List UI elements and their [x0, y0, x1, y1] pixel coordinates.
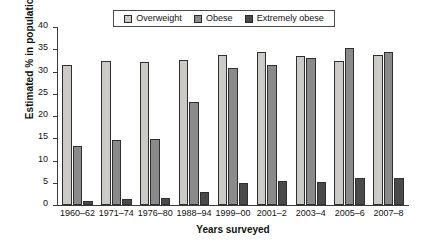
- y-axis-tick-mark: [53, 116, 57, 117]
- bar[interactable]: [140, 62, 150, 205]
- x-axis-tick-label: 2007–8: [369, 208, 408, 218]
- y-axis-tick-mark: [53, 205, 57, 206]
- bar-series-area: [58, 27, 408, 205]
- chart-legend: OverweightObeseExtremely obese: [113, 10, 335, 27]
- bar[interactable]: [179, 60, 189, 206]
- y-axis-title: Estimated % in population: [24, 0, 35, 131]
- bar[interactable]: [73, 146, 83, 205]
- bar[interactable]: [373, 55, 383, 205]
- bar[interactable]: [355, 178, 365, 205]
- x-axis-tick-label: 1999–00: [214, 208, 253, 218]
- bar-group: [291, 27, 330, 205]
- legend-entry[interactable]: Extremely obese: [245, 14, 324, 23]
- y-axis-tick-label: 15: [38, 132, 48, 141]
- bar[interactable]: [296, 56, 306, 205]
- legend-label: Extremely obese: [257, 14, 324, 23]
- x-axis-title: Years surveyed: [57, 224, 409, 235]
- y-axis-tick-mark: [53, 183, 57, 184]
- bar[interactable]: [228, 68, 238, 205]
- bar[interactable]: [278, 181, 288, 205]
- x-axis-tick-label: 1988–94: [175, 208, 214, 218]
- chart-figure: OverweightObeseExtremely obese 051015202…: [0, 0, 423, 250]
- bar-group: [252, 27, 291, 205]
- bar[interactable]: [306, 58, 316, 205]
- y-axis-tick-mark: [53, 27, 57, 28]
- bar[interactable]: [101, 61, 111, 205]
- legend-entry[interactable]: Overweight: [124, 14, 182, 23]
- legend-swatch-icon: [245, 15, 253, 23]
- x-axis-tick-label: 1971–74: [97, 208, 136, 218]
- legend-label: Obese: [206, 14, 233, 23]
- bar[interactable]: [384, 52, 394, 205]
- bar-group: [175, 27, 214, 205]
- bar[interactable]: [267, 65, 277, 205]
- y-axis-tick-mark: [53, 94, 57, 95]
- bar[interactable]: [122, 199, 132, 205]
- bar-group: [97, 27, 136, 205]
- y-axis-tick-label: 40: [38, 21, 48, 30]
- y-axis-tick-label: 30: [38, 66, 48, 75]
- bar[interactable]: [161, 198, 171, 205]
- bar[interactable]: [218, 55, 228, 205]
- bar[interactable]: [150, 139, 160, 205]
- legend-swatch-icon: [124, 15, 132, 23]
- y-axis-tick-label: 10: [38, 155, 48, 164]
- bar[interactable]: [345, 48, 355, 205]
- y-axis-tick-mark: [53, 138, 57, 139]
- bar-group: [58, 27, 97, 205]
- y-axis-tick-label: 20: [38, 110, 48, 119]
- bar[interactable]: [62, 65, 72, 205]
- x-axis-line: [57, 205, 409, 206]
- legend-entry[interactable]: Obese: [194, 14, 233, 23]
- bar[interactable]: [334, 61, 344, 205]
- x-axis-tick-label: 2005–6: [330, 208, 369, 218]
- bar[interactable]: [239, 183, 249, 205]
- bar[interactable]: [257, 52, 267, 205]
- bar[interactable]: [317, 182, 327, 205]
- bar[interactable]: [112, 140, 122, 205]
- legend-swatch-icon: [194, 15, 202, 23]
- x-axis-tick-label: 1960–62: [58, 208, 97, 218]
- x-axis-tick-label: 2003–4: [291, 208, 330, 218]
- bar[interactable]: [200, 192, 210, 205]
- x-axis-ticks: 1960–621971–741976–801988–941999–002001–…: [58, 208, 408, 222]
- bar[interactable]: [189, 102, 199, 205]
- y-axis-tick-label: 35: [38, 43, 48, 52]
- y-axis-tick-label: 25: [38, 88, 48, 97]
- y-axis-tick-label: 0: [43, 199, 48, 208]
- bar-group: [330, 27, 369, 205]
- bar[interactable]: [394, 178, 404, 205]
- x-axis-tick-label: 1976–80: [136, 208, 175, 218]
- x-axis-tick-label: 2001–2: [252, 208, 291, 218]
- bar[interactable]: [83, 201, 93, 205]
- legend-label: Overweight: [136, 14, 182, 23]
- y-axis-tick-mark: [53, 161, 57, 162]
- bar-group: [369, 27, 408, 205]
- bar-group: [136, 27, 175, 205]
- y-axis-tick-mark: [53, 49, 57, 50]
- y-axis-tick-mark: [53, 72, 57, 73]
- y-axis-tick-label: 5: [43, 177, 48, 186]
- bar-group: [214, 27, 253, 205]
